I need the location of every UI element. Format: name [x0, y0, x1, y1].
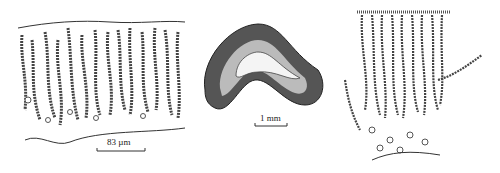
right-panel	[345, 12, 482, 160]
figure-canvas: 83 µm 1 mm	[0, 0, 500, 173]
illustration	[0, 0, 500, 173]
left-panel	[18, 21, 185, 151]
scale-label-middle: 1 mm	[260, 113, 281, 123]
scale-label-left: 83 µm	[107, 137, 130, 147]
middle-panel	[204, 24, 322, 126]
